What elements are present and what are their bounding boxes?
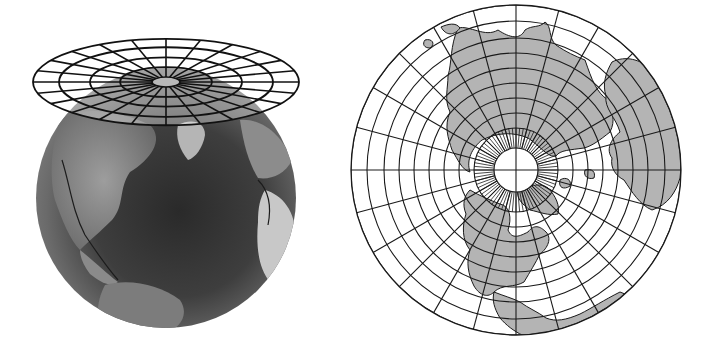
map-graticule (351, 5, 681, 335)
polar-map (351, 5, 681, 345)
plane-pole (152, 77, 180, 87)
land-island (585, 169, 595, 178)
figure-canvas (0, 0, 716, 355)
projection-plane (33, 39, 299, 125)
